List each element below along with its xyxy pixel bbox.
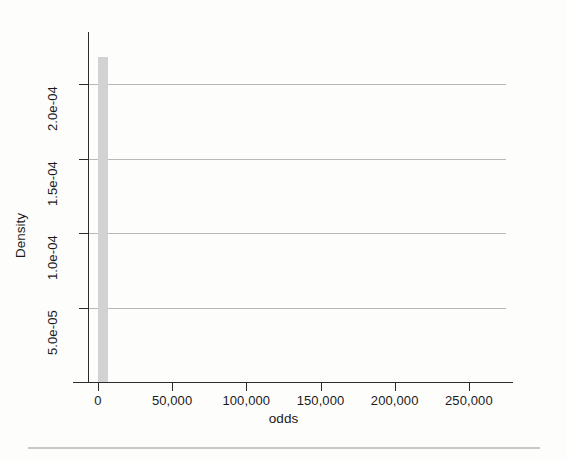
y-axis-tick-label: 1.0e-04 bbox=[45, 235, 60, 280]
y-axis-tick bbox=[79, 233, 89, 234]
x-axis-line bbox=[73, 382, 513, 383]
y-axis-title: Density bbox=[13, 213, 28, 258]
gridline bbox=[89, 159, 506, 160]
x-axis-tick-label: 50,000 bbox=[152, 393, 192, 408]
gridline bbox=[89, 233, 506, 234]
plot-area bbox=[89, 32, 506, 382]
y-axis-tick-label: 5.0e-05 bbox=[45, 310, 60, 355]
gridline bbox=[89, 84, 506, 85]
x-axis-tick bbox=[395, 383, 396, 391]
y-axis-tick bbox=[79, 84, 89, 85]
y-axis-tick bbox=[79, 308, 89, 309]
x-axis-tick-label: 100,000 bbox=[222, 393, 270, 408]
x-axis-tick bbox=[469, 383, 470, 391]
histogram-bar bbox=[98, 57, 108, 382]
page-bottom-rule bbox=[28, 447, 540, 449]
x-axis-tick bbox=[98, 383, 99, 391]
x-axis-tick-label: 150,000 bbox=[297, 393, 345, 408]
x-axis-tick bbox=[246, 383, 247, 391]
page-root: 5.0e-051.0e-041.5e-042.0e-04 050,000100,… bbox=[0, 0, 567, 461]
x-axis-title: odds bbox=[0, 411, 567, 426]
y-axis-tick-label: 1.5e-04 bbox=[45, 161, 60, 206]
density-histogram-figure: 5.0e-051.0e-041.5e-042.0e-04 050,000100,… bbox=[0, 0, 567, 440]
x-axis-tick bbox=[321, 383, 322, 391]
y-axis-tick-label: 2.0e-04 bbox=[45, 86, 60, 131]
gridline bbox=[89, 308, 506, 309]
y-axis-tick bbox=[79, 159, 89, 160]
x-axis-tick bbox=[172, 383, 173, 391]
x-axis-tick-label: 0 bbox=[94, 393, 101, 408]
x-axis-tick-label: 200,000 bbox=[371, 393, 419, 408]
x-axis-tick-label: 250,000 bbox=[445, 393, 493, 408]
